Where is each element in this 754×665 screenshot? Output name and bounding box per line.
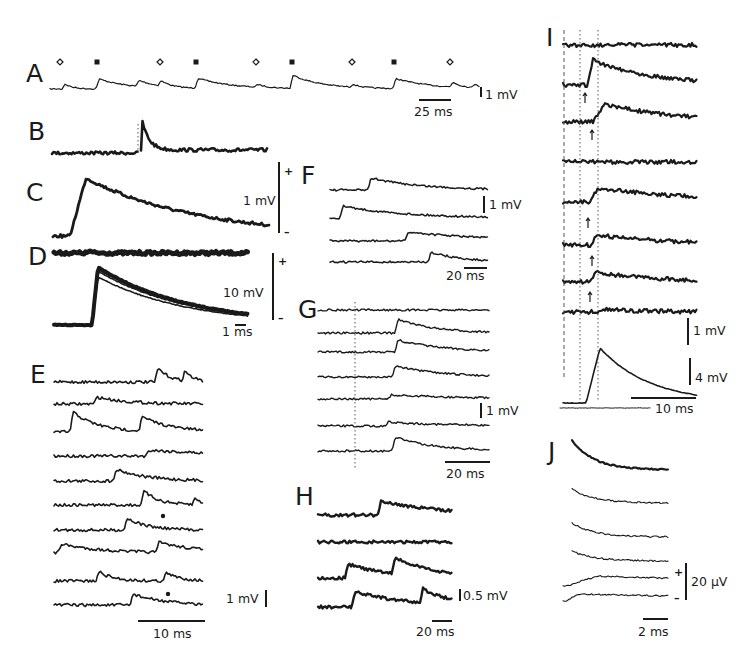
- panel-e-time-label: 10 ms: [153, 626, 192, 641]
- panel-c-trace: [53, 179, 269, 237]
- open-diamond-marker: [447, 59, 453, 65]
- panel-label-b: B: [28, 117, 45, 146]
- panel-g-trace: [318, 319, 489, 334]
- panel-a-trace: [50, 76, 479, 90]
- panel-f-time-label: 20 ms: [446, 268, 485, 283]
- arrow-up-icon: [586, 218, 590, 228]
- event-dot-marker: [166, 592, 170, 596]
- filled-square-marker: [290, 60, 295, 65]
- panel-f-trace: [330, 232, 488, 242]
- panel-a-time-label: 25 ms: [414, 104, 453, 119]
- panel-h-voltage-label: 0.5 mV: [463, 588, 508, 603]
- panel-j-time-label: 2 ms: [638, 624, 669, 639]
- panel-h-trace: [318, 500, 452, 516]
- panel-g-time-label: 20 ms: [446, 466, 485, 481]
- panel-a-voltage-label: 1 mV: [485, 87, 518, 102]
- panel-label-h: H: [295, 482, 314, 511]
- panel-b-trace-pre: [52, 152, 138, 155]
- panel-i-voltage-label: 1 mV: [693, 323, 726, 338]
- panel-d-minus: –: [278, 312, 284, 325]
- panel-i-trace: [563, 189, 697, 204]
- panel-d-plus: +: [278, 255, 287, 268]
- open-diamond-marker: [349, 59, 355, 65]
- panel-e-trace: [54, 519, 203, 532]
- panel-d-upper-trace: [54, 251, 248, 255]
- panel-j-minus: –: [674, 592, 680, 605]
- panel-j-trace: [572, 489, 668, 504]
- panel-g-trace: [318, 309, 489, 311]
- panel-d-lower-trace: [54, 268, 248, 326]
- panel-e-trace: [54, 571, 203, 582]
- arrow-up-icon: [590, 130, 594, 140]
- panel-label-d: D: [28, 242, 47, 271]
- panel-c-plus: +: [284, 165, 293, 178]
- panel-e-trace: [54, 396, 203, 405]
- filled-square-marker: [194, 60, 199, 65]
- panel-j-trace: [572, 440, 668, 470]
- panel-i-trace: [563, 271, 697, 284]
- panel-d-lower-trace: [54, 278, 248, 326]
- arrow-up-icon: [588, 292, 592, 302]
- panel-j-trace: [572, 523, 668, 538]
- panel-i-average-trace: [563, 349, 697, 404]
- panel-d-time-label: 1 ms: [222, 324, 253, 339]
- panel-h-trace: [318, 587, 452, 608]
- panel-j-plus: +: [674, 566, 683, 579]
- panel-f-trace: [330, 178, 488, 191]
- panel-g-voltage-label: 1 mV: [486, 403, 519, 418]
- figure-canvas: A B C D E F G H I J 25 ms 1 mV + – 1 mV …: [0, 0, 754, 665]
- panel-e-trace: [54, 469, 203, 482]
- event-dot-marker: [161, 514, 165, 518]
- panel-e-trace: [54, 450, 203, 458]
- panel-i-trace: [563, 43, 697, 47]
- filled-square-marker: [392, 60, 397, 65]
- panel-label-c: C: [26, 178, 43, 207]
- panel-i-trace: [563, 160, 697, 164]
- panel-label-i: I: [546, 23, 553, 52]
- panel-j-trace: [563, 576, 668, 587]
- panel-h-trace: [318, 558, 452, 580]
- panel-i-trace: [563, 103, 697, 124]
- panel-e-trace: [54, 369, 203, 384]
- panel-c-voltage-label: 1 mV: [243, 193, 276, 208]
- panel-i-trace: [563, 308, 697, 314]
- panel-f-trace: [330, 205, 488, 219]
- open-diamond-marker: [57, 59, 63, 65]
- panel-g-trace: [318, 438, 489, 452]
- panel-f-trace: [330, 252, 488, 263]
- panel-h-trace: [318, 541, 452, 544]
- arrow-up-icon: [583, 93, 587, 103]
- panel-label-e: E: [30, 360, 46, 389]
- panel-label-a: A: [26, 59, 43, 88]
- panel-e-trace: [54, 412, 203, 433]
- panel-i-trace: [563, 235, 697, 248]
- panel-a-markers: [57, 59, 453, 65]
- panel-i-trace: [563, 58, 697, 87]
- panel-b-trace-post: [141, 121, 267, 152]
- panel-label-g: G: [298, 295, 317, 324]
- filled-square-marker: [95, 60, 100, 65]
- panel-i-time-label: 10 ms: [655, 401, 694, 416]
- panel-e-voltage-label: 1 mV: [226, 591, 259, 606]
- panel-j-trace: [563, 594, 668, 602]
- open-diamond-marker: [157, 59, 163, 65]
- panel-label-f: F: [301, 161, 315, 190]
- panel-d-voltage-label: 10 mV: [223, 285, 264, 300]
- panel-f-voltage-label: 1 mV: [489, 197, 522, 212]
- panel-j-trace: [572, 551, 668, 562]
- panel-h-time-label: 20 ms: [416, 624, 455, 639]
- panel-g-trace: [318, 366, 489, 378]
- panel-e-trace: [54, 491, 203, 507]
- open-diamond-marker: [253, 59, 259, 65]
- panel-label-j: J: [546, 437, 555, 466]
- panel-g-trace: [318, 340, 489, 353]
- panel-e-trace: [54, 541, 203, 554]
- guides-layer: [138, 30, 598, 470]
- traces-layer: [50, 43, 697, 608]
- panel-j-voltage-label: 20 µV: [691, 574, 728, 589]
- panel-g-trace: [318, 394, 489, 400]
- panel-e-trace: [54, 594, 203, 606]
- arrow-up-icon: [590, 256, 594, 266]
- panel-c-minus: –: [284, 226, 290, 239]
- panel-i-voltage-label-2: 4 mV: [695, 370, 728, 385]
